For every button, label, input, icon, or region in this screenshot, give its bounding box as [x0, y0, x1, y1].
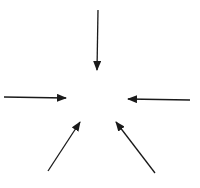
arrow-left-icon: [4, 97, 66, 98]
converging-arrows-diagram: [0, 0, 200, 188]
arrow-top-icon: [97, 10, 98, 70]
arrow-bottom-left-icon: [48, 122, 80, 171]
arrow-bottom-right-icon: [116, 122, 155, 173]
arrow-right-icon: [128, 99, 190, 100]
arrow-group: [4, 10, 190, 173]
